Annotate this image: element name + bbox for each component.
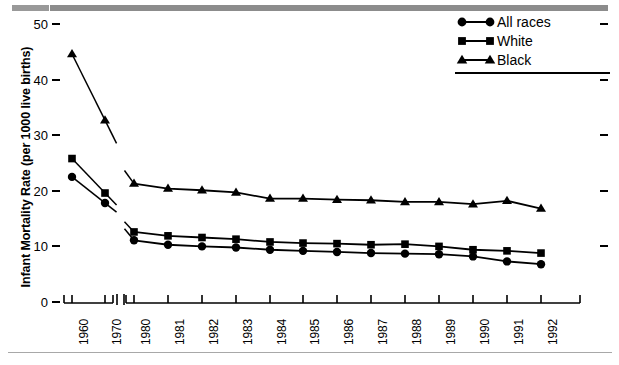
triangle-marker (455, 52, 497, 68)
square-marker (435, 243, 443, 251)
circle-marker (537, 260, 545, 268)
x-axis-tick-label: 1960 (77, 319, 91, 345)
x-axis-tick-label: 1985 (308, 319, 322, 345)
legend-item[interactable]: Black (455, 50, 610, 69)
square-marker (333, 240, 341, 248)
legend-symbol (455, 14, 497, 30)
circle-marker (367, 249, 375, 257)
x-axis-tick-label: 1988 (410, 319, 424, 345)
square-marker (469, 246, 477, 254)
square-marker (401, 240, 409, 248)
square-marker (198, 234, 206, 242)
circle-marker (333, 248, 341, 256)
square-marker (130, 228, 138, 236)
x-axis-tick-label: 1991 (512, 319, 526, 345)
square-marker (486, 37, 494, 45)
legend-item[interactable]: White (455, 31, 610, 50)
circle-marker (455, 14, 497, 30)
circle-marker (68, 173, 76, 181)
circle-marker (198, 242, 206, 250)
triangle-marker (502, 196, 512, 204)
legend-label: All races (497, 14, 551, 30)
circle-marker (101, 199, 109, 207)
square-marker (455, 33, 497, 49)
legend-underline (455, 72, 610, 74)
circle-marker (164, 241, 172, 249)
triangle-marker (67, 49, 77, 57)
square-marker (164, 232, 172, 240)
triangle-marker (457, 54, 468, 63)
square-marker (266, 238, 274, 246)
legend-label: Black (497, 52, 531, 68)
circle-marker (435, 250, 443, 258)
legend-label: White (497, 33, 533, 49)
square-marker (299, 239, 307, 247)
x-axis-tick-label: 1992 (546, 319, 560, 345)
circle-marker (503, 257, 511, 265)
x-axis-tick-label: 1986 (342, 319, 356, 345)
legend: All racesWhiteBlack (455, 12, 610, 69)
x-axis-tick-label: 1970 (110, 319, 124, 345)
triangle-marker (100, 115, 110, 123)
legend-symbol (455, 52, 497, 68)
circle-marker (299, 247, 307, 255)
series-line-segment (72, 54, 117, 143)
square-marker (503, 247, 511, 255)
series-all-races (68, 173, 545, 269)
square-marker (458, 37, 466, 45)
legend-symbol (455, 33, 497, 49)
x-axis-tick-label: 1980 (139, 319, 153, 345)
triangle-marker (485, 54, 496, 63)
legend-item[interactable]: All races (455, 12, 610, 31)
square-marker (101, 189, 109, 197)
circle-marker (266, 246, 274, 254)
x-axis-tick-label: 1990 (478, 319, 492, 345)
square-marker (232, 235, 240, 243)
x-axis-tick-label: 1987 (376, 319, 390, 345)
circle-marker (486, 17, 495, 26)
x-axis-tick-label: 1981 (173, 319, 187, 345)
circle-marker (130, 236, 138, 244)
circle-marker (232, 243, 240, 251)
x-axis-tick-label: 1984 (275, 319, 289, 345)
square-marker (537, 249, 545, 257)
chart-figure: Infant Mortality Rate (per 1000 live bir… (0, 0, 619, 365)
square-marker (68, 155, 76, 163)
x-axis-tick-label: 1983 (241, 319, 255, 345)
x-axis-tick-label: 1982 (207, 319, 221, 345)
x-axis-tick-label: 1989 (444, 319, 458, 345)
circle-marker (458, 17, 467, 26)
circle-marker (401, 249, 409, 257)
square-marker (367, 241, 375, 249)
